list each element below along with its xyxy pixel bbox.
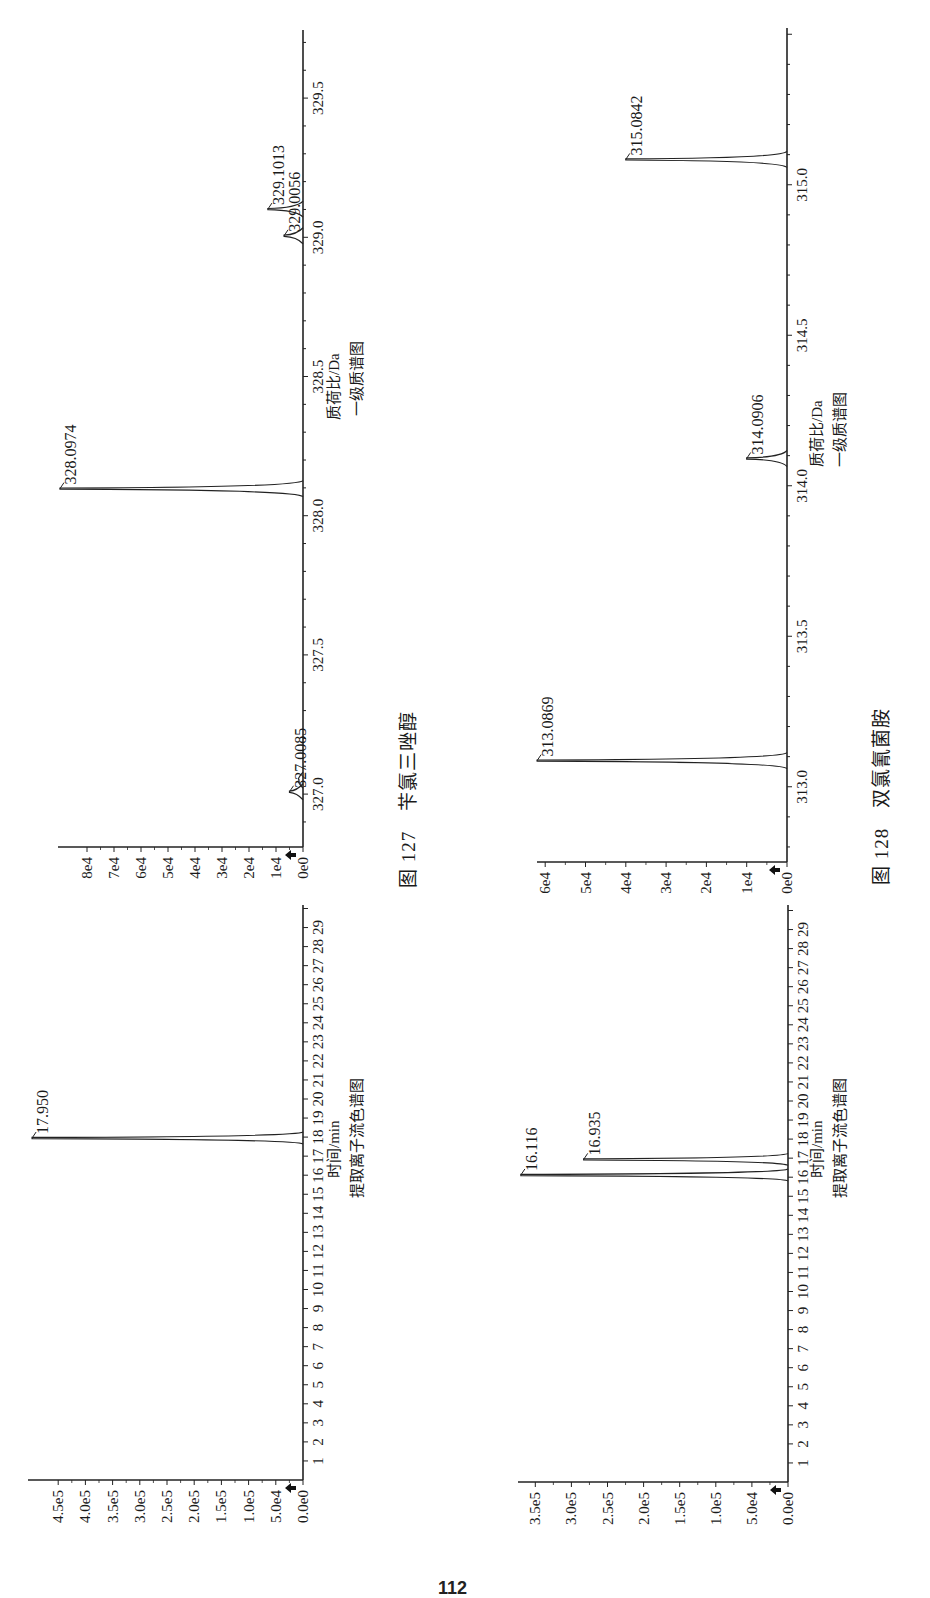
fig127-xic-x-tick-label: 3 bbox=[310, 1419, 326, 1427]
fig128-ms-y-tick-label: 0e0 bbox=[779, 872, 795, 894]
fig128-ms-peak-label: 313.0869 bbox=[539, 697, 556, 757]
fig128-ms-x-tick-label: 314.5 bbox=[794, 318, 810, 352]
fig127-ms-peak-label: 328.0974 bbox=[62, 425, 79, 485]
fig127-xic-y-tick-label: 3.0e5 bbox=[132, 1490, 148, 1523]
fig128-xic-y-tick-label: 3.5e5 bbox=[527, 1492, 543, 1525]
fig127-xic-x-tick-label: 9 bbox=[310, 1305, 326, 1313]
fig128-xic-x-tick-label: 24 bbox=[795, 1017, 811, 1033]
fig127-xic-y-tick-label: 4.0e5 bbox=[77, 1490, 93, 1523]
fig127-xic-x-tick-label: 23 bbox=[310, 1034, 326, 1049]
fig128-xic-peak bbox=[584, 1153, 788, 1165]
fig127-ms-y-tick-label: 5e4 bbox=[160, 857, 176, 879]
fig127-ms-y-tick-label: 7e4 bbox=[106, 857, 122, 879]
fig128-xic-xlabel: 时间/min bbox=[805, 1120, 826, 1178]
fig127-xic-y-tick-label: 2.0e5 bbox=[186, 1490, 202, 1523]
fig127-xic-x-tick-label: 27 bbox=[310, 958, 326, 974]
fig127-xic-x-tick-label: 13 bbox=[310, 1225, 326, 1240]
fig128-xic-y-tick-label: 2.0e5 bbox=[636, 1492, 652, 1525]
fig128-xic-title: 提取离子流色谱图 bbox=[828, 1078, 849, 1198]
fig128-xic-x-tick-label: 5 bbox=[795, 1383, 811, 1391]
fig128-ms-peak-label: 315.0842 bbox=[628, 95, 645, 155]
fig128-ms-y-tick-label: 2e4 bbox=[698, 872, 714, 894]
fig127-extracted-ion-chromatogram: 1234567891011121314151617181920212223242… bbox=[28, 905, 326, 1523]
fig127-xic-xlabel: 时间/min bbox=[322, 1120, 343, 1178]
fig128-xic-x-tick-label: 11 bbox=[795, 1265, 811, 1279]
fig128-xic-x-tick-label: 13 bbox=[795, 1227, 811, 1242]
fig127-xic-y-tick-label: 1.0e5 bbox=[241, 1490, 257, 1523]
fig128-ms-y-tick-label: 4e4 bbox=[618, 872, 634, 894]
fig128-ms-x-tick-label: 314.0 bbox=[794, 469, 810, 503]
fig128-xic-y-tick-label: 0.0e0 bbox=[780, 1492, 796, 1525]
fig127-xic-x-tick-label: 24 bbox=[310, 1015, 326, 1031]
fig127-ms-peak-label: 329.1013 bbox=[270, 145, 287, 205]
fig127-xic-x-tick-label: 12 bbox=[310, 1244, 326, 1259]
fig127-ms-x-tick-label: 328.0 bbox=[310, 499, 326, 533]
fig127-xic-x-tick-label: 8 bbox=[310, 1324, 326, 1332]
fig128-xic-x-tick-label: 6 bbox=[795, 1363, 811, 1371]
fig127-xic-x-tick-label: 10 bbox=[310, 1282, 326, 1297]
fig127-xic-peak bbox=[32, 1132, 303, 1144]
fig128-ms-x-tick-label: 313.5 bbox=[794, 619, 810, 653]
fig127-ms-xlabel: 质荷比/Da bbox=[322, 353, 343, 420]
fig127-xic-y-tick-label: 4.5e5 bbox=[50, 1490, 66, 1523]
fig128-xic-x-tick-label: 3 bbox=[795, 1421, 811, 1429]
fig127-ms-x-tick-label: 329.0 bbox=[310, 220, 326, 254]
fig128-xic-x-tick-label: 15 bbox=[795, 1189, 811, 1204]
fig128-ms1-spectrum: 313.0313.5314.0314.5315.00e01e42e43e44e4… bbox=[537, 28, 810, 894]
fig127-xic-x-tick-label: 1 bbox=[310, 1457, 326, 1465]
fig128-xic-x-tick-label: 9 bbox=[795, 1307, 811, 1315]
fig128-xic-peak-label: 16.935 bbox=[586, 1111, 603, 1155]
fig128-xic-x-tick-label: 27 bbox=[795, 960, 811, 976]
fig128-xic-y-tick-label: 3.0e5 bbox=[563, 1492, 579, 1525]
fig127-xic-y-tick-label: 5.0e4 bbox=[268, 1490, 284, 1523]
fig127-xic-x-tick-label: 6 bbox=[310, 1361, 326, 1369]
fig128-xic-y-tick-label: 2.5e5 bbox=[600, 1492, 616, 1525]
fig128-xic-y-tick-label: 1.0e5 bbox=[708, 1492, 724, 1525]
fig127-ms-x-tick-label: 327.0 bbox=[310, 777, 326, 811]
fig128-ms-y-tick-label: 1e4 bbox=[739, 872, 755, 894]
fig128-xic-x-tick-label: 12 bbox=[795, 1246, 811, 1261]
fig128-ms-peak bbox=[626, 151, 787, 167]
fig128-ms-y-tick-label: 6e4 bbox=[537, 872, 553, 894]
fig127-ms-y-tick-label: 6e4 bbox=[133, 857, 149, 879]
fig127-xic-x-tick-label: 2 bbox=[310, 1438, 326, 1446]
fig128-xic-x-tick-label: 25 bbox=[795, 998, 811, 1013]
fig128-xic-x-tick-label: 1 bbox=[795, 1459, 811, 1467]
fig128-ms-y-tick-label: 3e4 bbox=[658, 872, 674, 894]
fig127-xic-x-tick-label: 26 bbox=[310, 977, 326, 993]
fig128-ms-xlabel: 质荷比/Da bbox=[805, 400, 826, 467]
fig127-ms-peak bbox=[60, 481, 303, 497]
fig127-ms-x-tick-label: 327.5 bbox=[310, 638, 326, 672]
fig128-xic-x-tick-label: 7 bbox=[795, 1344, 811, 1352]
fig127-ms-y-tick-label: 1e4 bbox=[268, 857, 284, 879]
fig128-extracted-ion-chromatogram: 1234567891011121314151617181920212223242… bbox=[518, 905, 811, 1525]
fig127-xic-y-tick-label: 2.5e5 bbox=[159, 1490, 175, 1523]
fig127-xic-x-tick-label: 25 bbox=[310, 996, 326, 1011]
fig127-ms-y-tick-label: 3e4 bbox=[214, 857, 230, 879]
figure-128-caption: 图 128 双氯氰菌胺 bbox=[866, 708, 893, 885]
fig127-xic-peak-label: 17.950 bbox=[34, 1090, 51, 1134]
fig128-xic-x-tick-label: 29 bbox=[795, 922, 811, 937]
fig128-xic-peak-label: 16.116 bbox=[523, 1128, 540, 1171]
fig128-xic-y-tick-label: 1.5e5 bbox=[672, 1492, 688, 1525]
fig128-ms-peak-label: 314.0906 bbox=[749, 394, 766, 454]
fig128-xic-x-tick-label: 10 bbox=[795, 1284, 811, 1299]
fig127-ms-peak-label: 329.0056 bbox=[286, 172, 303, 232]
fig127-xic-x-tick-label: 15 bbox=[310, 1187, 326, 1202]
fig127-xic-x-tick-label: 29 bbox=[310, 920, 326, 935]
fig127-ms-y-tick-label: 0e0 bbox=[295, 857, 311, 879]
fig128-xic-x-tick-label: 4 bbox=[795, 1402, 811, 1410]
page-number: 112 bbox=[438, 1578, 467, 1598]
fig127-ms1-spectrum: 327.0327.5328.0328.5329.0329.50e01e42e43… bbox=[58, 30, 326, 879]
fig128-xic-x-tick-label: 21 bbox=[795, 1074, 811, 1089]
fig127-ms-title: 一级质谱图 bbox=[345, 341, 366, 416]
fig128-xic-x-tick-label: 26 bbox=[795, 979, 811, 995]
fig127-xic-x-tick-label: 20 bbox=[310, 1092, 326, 1107]
fig127-xic-x-tick-label: 11 bbox=[310, 1263, 326, 1277]
fig128-xic-x-tick-label: 20 bbox=[795, 1094, 811, 1109]
fig128-xic-x-tick-label: 23 bbox=[795, 1036, 811, 1051]
fig127-ms-y-tick-label: 8e4 bbox=[79, 857, 95, 879]
fig127-xic-x-tick-label: 14 bbox=[310, 1205, 326, 1221]
fig127-ms-y-tick-label: 2e4 bbox=[241, 857, 257, 879]
